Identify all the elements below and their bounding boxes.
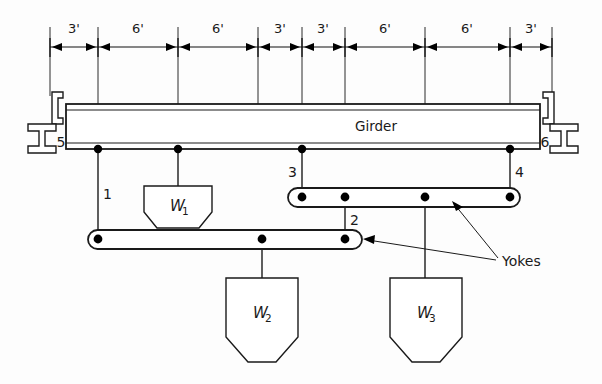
point-label-4: 4	[515, 164, 524, 180]
dimension-label-4: 3'	[274, 21, 286, 36]
yokes-leader-upper	[455, 205, 498, 258]
point-label-2: 2	[350, 212, 359, 228]
upper-yoke-dot-1	[298, 193, 307, 202]
girder-load-diagram: 3' 6' 6' 3' 3' 6' 6' 3' 5 6 Girder	[0, 0, 602, 384]
yokes-leader-lower	[368, 240, 496, 260]
upper-yoke-bar	[288, 188, 520, 207]
dimension-label-2: 6'	[132, 21, 144, 36]
left-hanger-bracket	[52, 92, 63, 124]
dimension-label-3: 6'	[212, 21, 224, 36]
load-w1: W 1	[144, 186, 212, 228]
diagram-canvas: 3' 6' 6' 3' 3' 6' 6' 3' 5 6 Girder	[0, 0, 602, 384]
dimension-label-1: 3'	[68, 21, 80, 36]
lower-yoke-bar	[88, 230, 362, 249]
girder-body	[66, 104, 540, 149]
load-w2: W 2	[226, 278, 298, 362]
pin-dot-1	[94, 145, 102, 153]
dimension-label-5: 3'	[317, 21, 329, 36]
left-support-label: 5	[57, 134, 66, 150]
girder-label: Girder	[355, 118, 397, 134]
load-w3-subscript: 3	[429, 312, 436, 324]
load-w1-subscript: 1	[182, 205, 189, 217]
pin-dot-w1	[174, 145, 182, 153]
upper-yoke-dot-2	[341, 193, 350, 202]
lower-yoke-dot-3	[341, 235, 350, 244]
load-w2-subscript: 2	[265, 312, 272, 324]
right-i-beam-icon	[550, 124, 578, 153]
lower-left-yoke	[88, 230, 362, 249]
dimension-label-7: 6'	[461, 21, 473, 36]
right-support-label: 6	[541, 134, 550, 150]
yokes-label: Yokes	[501, 253, 541, 269]
yokes-arrowhead-lower	[363, 235, 375, 244]
dimension-label-6: 6'	[379, 21, 391, 36]
right-hanger-bracket	[543, 92, 554, 124]
left-i-beam-icon	[28, 124, 56, 153]
upper-yoke-dot-3	[421, 193, 430, 202]
pin-dot-3	[298, 145, 306, 153]
yokes-callout: Yokes	[363, 201, 541, 269]
left-support: 5	[28, 92, 65, 153]
upper-yoke-dot-4	[506, 193, 515, 202]
lower-yoke-dot-2	[258, 235, 267, 244]
point-label-1: 1	[103, 186, 112, 202]
dimension-label-8: 3'	[525, 21, 537, 36]
load-w3: W 3	[390, 278, 462, 362]
point-label-3: 3	[288, 164, 297, 180]
dimension-line: 3' 6' 6' 3' 3' 6' 6' 3'	[50, 21, 552, 57]
girder: Girder	[66, 104, 540, 149]
upper-right-yoke	[288, 188, 520, 207]
pin-dot-4	[506, 145, 514, 153]
right-support: 6	[541, 92, 578, 153]
lower-yoke-dot-1	[94, 235, 103, 244]
